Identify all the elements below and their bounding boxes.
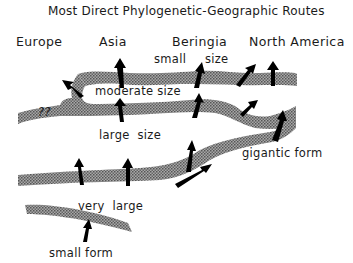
region-beringia: Beringia bbox=[172, 34, 227, 49]
label-very-large: very large bbox=[78, 199, 143, 213]
label-small: small bbox=[154, 52, 186, 66]
arrow-icon bbox=[83, 219, 92, 242]
label-size: size bbox=[205, 52, 229, 66]
label-small-form: small form bbox=[49, 246, 113, 260]
label-large-size: large size bbox=[99, 128, 161, 142]
label-moderate-size: moderate size bbox=[95, 84, 181, 98]
label-unknown-origin: ?? bbox=[38, 105, 51, 119]
label-gigantic-form: gigantic form bbox=[242, 146, 323, 160]
diagram-title: Most Direct Phylogenetic-Geographic Rout… bbox=[48, 4, 325, 18]
region-asia: Asia bbox=[99, 34, 127, 49]
region-north-america: North America bbox=[249, 34, 345, 49]
region-europe: Europe bbox=[16, 34, 62, 49]
